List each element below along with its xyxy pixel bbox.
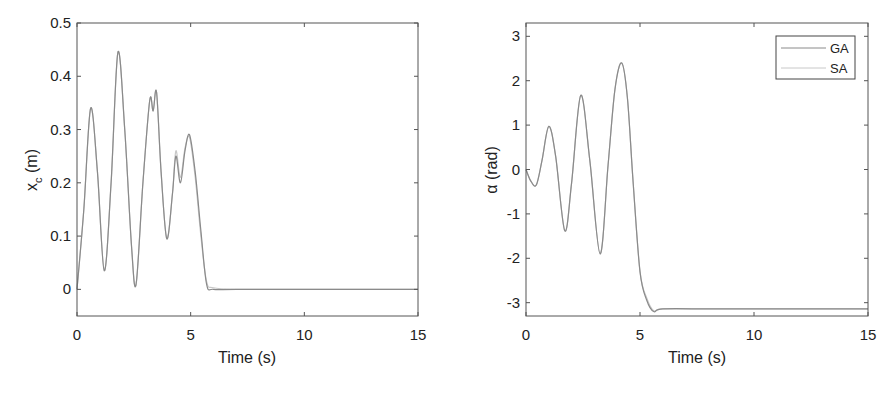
y-tick-label: 0 [512, 161, 520, 178]
y-axis-label: α (rad) [483, 146, 500, 193]
x-tick-label: 0 [73, 326, 81, 343]
y-tick-label: 2 [512, 72, 520, 89]
x-tick-label: 15 [410, 326, 427, 343]
y-tick-label: -2 [507, 249, 520, 266]
series-line-sa [77, 51, 418, 289]
legend: GA SA [776, 36, 855, 79]
series-line-sa [526, 63, 868, 311]
y-tick-label: 0.4 [50, 67, 71, 84]
x-tick-labels: 051015 [522, 326, 877, 343]
y-tick-label: -1 [507, 205, 520, 222]
y-axis-label: xc (m) [23, 149, 44, 191]
x-axis-label: Time (s) [668, 349, 726, 366]
y-tick-label: 0 [63, 280, 71, 297]
y-tick-label: 0.5 [50, 14, 71, 31]
y-tick-label: 0.1 [50, 227, 71, 244]
plot-lines [526, 63, 868, 312]
y-tick-label: -3 [507, 294, 520, 311]
figure: 051015 00.10.20.30.40.5 Time (s) xc (m) … [0, 0, 892, 393]
y-tick-label: 0.2 [50, 174, 71, 191]
y-tick-label: 3 [512, 27, 520, 44]
x-tick-label: 5 [636, 326, 644, 343]
legend-label-sa: SA [830, 61, 848, 76]
x-tick-labels: 051015 [73, 326, 427, 343]
x-tick-label: 10 [296, 326, 313, 343]
series-line-ga [77, 51, 418, 290]
chart-xc: 051015 00.10.20.30.40.5 Time (s) xc (m) [23, 14, 426, 366]
y-tick-label: 0.3 [50, 121, 71, 138]
y-tick-label: 1 [512, 116, 520, 133]
x-axis-label: Time (s) [218, 349, 276, 366]
plot-lines [77, 51, 418, 290]
axis-ticks [77, 23, 418, 316]
chart-alpha: 051015 -3-2-10123 Time (s) α (rad) GA SA [483, 23, 876, 366]
series-line-ga [526, 63, 868, 312]
y-tick-labels: 00.10.20.30.40.5 [50, 14, 71, 297]
y-tick-labels: -3-2-10123 [507, 27, 520, 310]
x-tick-label: 15 [860, 326, 877, 343]
x-tick-label: 10 [746, 326, 763, 343]
x-tick-label: 5 [186, 326, 194, 343]
legend-label-ga: GA [830, 41, 849, 56]
axes-box [77, 23, 418, 316]
x-tick-label: 0 [522, 326, 530, 343]
